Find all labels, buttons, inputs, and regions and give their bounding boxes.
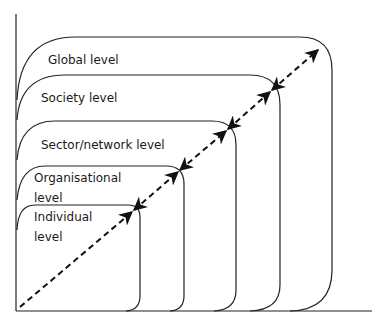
label-society: Society level <box>41 91 117 105</box>
arrow-segment-4 <box>228 92 270 129</box>
arrow-segment-5 <box>272 50 318 90</box>
nested-levels-diagram: Global level Society level Sector/networ… <box>0 0 384 326</box>
arrow-segment-2 <box>134 172 178 210</box>
label-global: Global level <box>48 53 119 67</box>
label-sector: Sector/network level <box>41 138 165 152</box>
label-organisational-2: level <box>34 191 63 205</box>
label-organisational-1: Organisational <box>34 171 121 185</box>
label-individual-1: Individual <box>34 210 92 224</box>
label-individual-2: level <box>34 230 63 244</box>
arrow-segment-1 <box>20 212 132 307</box>
arrow-segment-3 <box>180 131 226 170</box>
level-labels: Global level Society level Sector/networ… <box>34 53 165 244</box>
